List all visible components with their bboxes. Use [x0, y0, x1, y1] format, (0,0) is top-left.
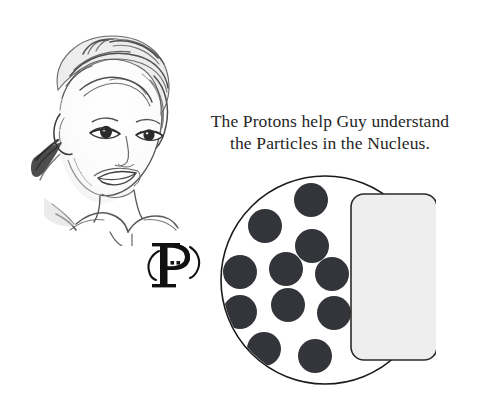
particle-proton — [295, 229, 329, 263]
p-letter-glyph — [152, 243, 190, 287]
proton-p-monogram — [143, 233, 205, 295]
particle-proton — [294, 183, 328, 217]
particle-proton — [247, 332, 281, 366]
particle-proton — [223, 255, 257, 289]
p-left-ear-icon — [148, 251, 159, 280]
p-monogram-svg — [143, 233, 205, 295]
particle-proton — [317, 296, 351, 330]
particle-proton — [315, 257, 349, 291]
particle-proton — [271, 288, 305, 322]
child-portrait-sketch — [14, 18, 194, 246]
p-dot-1-icon — [171, 261, 175, 265]
caption-line-2: the Particles in the Nucleus. — [205, 132, 455, 154]
particle-proton — [269, 252, 303, 286]
particle-proton — [223, 295, 257, 329]
nucleus-panel — [351, 194, 436, 360]
particle-proton — [248, 209, 282, 243]
caption-line-1: The Protons help Guy understand — [205, 110, 455, 132]
nucleus-svg — [218, 173, 436, 391]
portrait-svg — [14, 18, 194, 246]
p-dot-2-icon — [177, 261, 181, 265]
p-right-ear-icon — [190, 247, 199, 278]
caption-text: The Protons help Guy understand the Part… — [205, 110, 455, 154]
nucleus-diagram — [218, 173, 436, 391]
particle-proton — [298, 339, 332, 373]
portrait-strokes — [31, 36, 178, 246]
